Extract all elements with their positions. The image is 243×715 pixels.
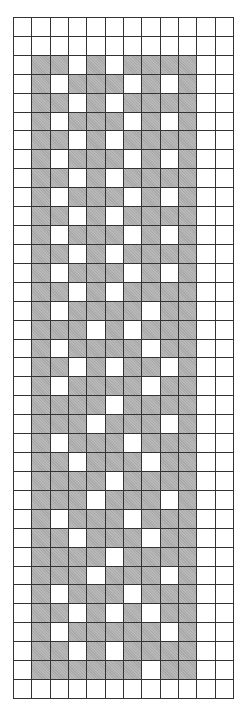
grid-cell-empty xyxy=(161,491,178,509)
grid-cell-empty xyxy=(216,396,233,414)
grid-cell-filled xyxy=(179,491,196,509)
grid-cell-empty xyxy=(216,642,233,660)
grid-cell-filled xyxy=(142,585,159,603)
grid-cell-filled xyxy=(124,472,141,490)
grid-cell-filled xyxy=(51,604,68,622)
grid-cell-empty xyxy=(216,56,233,74)
grid-cell-filled xyxy=(87,529,104,547)
grid-cell-filled xyxy=(142,548,159,566)
grid-cell-filled xyxy=(51,169,68,187)
grid-cell-filled xyxy=(142,169,159,187)
grid-cell-filled xyxy=(87,434,104,452)
grid-cell-filled xyxy=(87,131,104,149)
grid-cell-empty xyxy=(216,150,233,168)
grid-cell-empty xyxy=(216,604,233,622)
grid-cell-empty xyxy=(87,415,104,433)
grid-cell-filled xyxy=(142,75,159,93)
grid-cell-empty xyxy=(216,680,233,698)
grid-cell-empty xyxy=(14,567,31,585)
grid-cell-empty xyxy=(197,510,214,528)
grid-cell-filled xyxy=(124,302,141,320)
grid-cell-filled xyxy=(32,661,49,679)
grid-cell-filled xyxy=(124,529,141,547)
grid-cell-empty xyxy=(14,642,31,660)
grid-cell-empty xyxy=(124,226,141,244)
grid-cell-empty xyxy=(106,604,123,622)
grid-cell-filled xyxy=(32,604,49,622)
grid-cell-empty xyxy=(124,510,141,528)
grid-cell-empty xyxy=(197,264,214,282)
grid-cell-filled xyxy=(124,604,141,622)
grid-cell-empty xyxy=(14,548,31,566)
grid-cell-empty xyxy=(216,169,233,187)
grid-cell-empty xyxy=(106,131,123,149)
grid-cell-empty xyxy=(161,415,178,433)
grid-cell-filled xyxy=(69,585,86,603)
grid-cell-empty xyxy=(14,321,31,339)
grid-cell-filled xyxy=(142,642,159,660)
grid-cell-empty xyxy=(51,37,68,55)
grid-cell-empty xyxy=(142,604,159,622)
grid-cell-filled xyxy=(69,491,86,509)
grid-cell-filled xyxy=(69,321,86,339)
grid-cell-empty xyxy=(216,188,233,206)
grid-cell-empty xyxy=(69,358,86,376)
grid-cell-filled xyxy=(142,472,159,490)
grid-cell-empty xyxy=(142,302,159,320)
grid-cell-empty xyxy=(124,150,141,168)
grid-cell-empty xyxy=(14,75,31,93)
grid-cell-filled xyxy=(179,510,196,528)
grid-cell-filled xyxy=(161,529,178,547)
grid-cell-filled xyxy=(124,623,141,641)
grid-cell-empty xyxy=(87,18,104,36)
grid-cell-empty xyxy=(51,377,68,395)
grid-cell-empty xyxy=(197,226,214,244)
grid-cell-empty xyxy=(106,283,123,301)
grid-cell-empty xyxy=(142,680,159,698)
grid-cell-filled xyxy=(179,453,196,471)
grid-cell-filled xyxy=(106,510,123,528)
grid-cell-filled xyxy=(179,302,196,320)
grid-cell-empty xyxy=(216,567,233,585)
grid-cell-filled xyxy=(51,321,68,339)
grid-cell-filled xyxy=(69,264,86,282)
grid-cell-filled xyxy=(124,396,141,414)
grid-cell-filled xyxy=(32,529,49,547)
grid-cell-empty xyxy=(106,396,123,414)
grid-cell-filled xyxy=(32,434,49,452)
grid-cell-empty xyxy=(69,604,86,622)
grid-cell-filled xyxy=(106,113,123,131)
grid-cell-filled xyxy=(179,415,196,433)
grid-cell-filled xyxy=(69,226,86,244)
grid-cell-filled xyxy=(161,283,178,301)
grid-cell-empty xyxy=(179,37,196,55)
grid-cell-filled xyxy=(106,453,123,471)
grid-cell-empty xyxy=(142,529,159,547)
grid-cell-empty xyxy=(51,113,68,131)
grid-cell-empty xyxy=(197,340,214,358)
grid-cell-filled xyxy=(106,585,123,603)
grid-cell-empty xyxy=(14,283,31,301)
grid-cell-filled xyxy=(106,150,123,168)
grid-cell-filled xyxy=(32,415,49,433)
grid-cell-empty xyxy=(106,245,123,263)
grid-cell-empty xyxy=(14,453,31,471)
grid-cell-filled xyxy=(124,245,141,263)
grid-cell-empty xyxy=(197,472,214,490)
grid-cell-empty xyxy=(197,434,214,452)
grid-cell-empty xyxy=(142,661,159,679)
grid-cell-filled xyxy=(106,377,123,395)
grid-cell-filled xyxy=(32,188,49,206)
grid-cell-filled xyxy=(179,321,196,339)
grid-cell-empty xyxy=(197,94,214,112)
grid-cell-empty xyxy=(197,377,214,395)
grid-cell-empty xyxy=(124,321,141,339)
grid-cell-empty xyxy=(161,567,178,585)
grid-cell-empty xyxy=(216,321,233,339)
grid-cell-empty xyxy=(142,340,159,358)
grid-cell-filled xyxy=(161,56,178,74)
grid-cell-filled xyxy=(124,661,141,679)
grid-cell-empty xyxy=(216,585,233,603)
grid-cell-empty xyxy=(69,680,86,698)
grid-cell-filled xyxy=(179,56,196,74)
